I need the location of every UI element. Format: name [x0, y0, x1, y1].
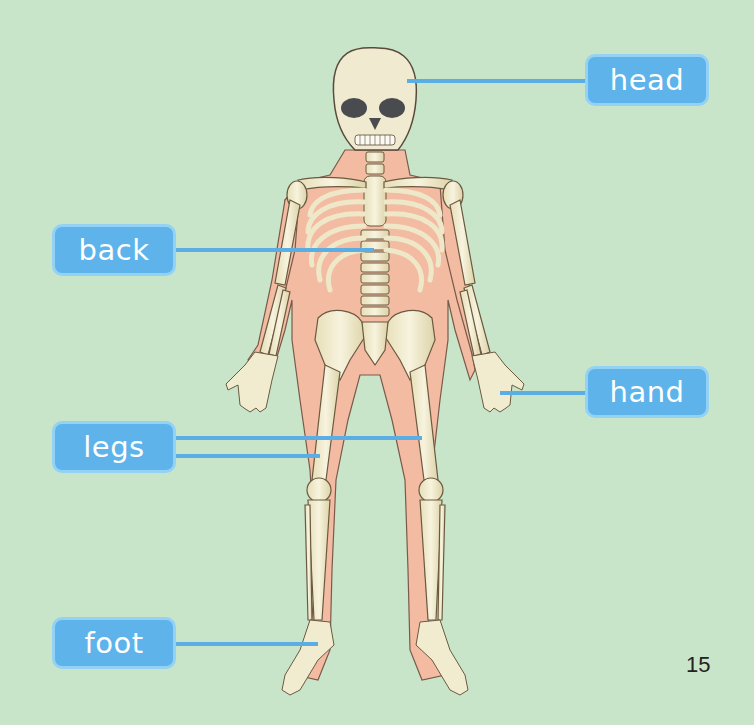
legs-leader-line-left	[176, 454, 320, 458]
hand-leader-line	[500, 391, 588, 395]
head-leader-line	[407, 79, 587, 83]
label-hand-text: hand	[610, 375, 685, 409]
label-back-text: back	[79, 233, 150, 267]
label-head-text: head	[610, 63, 684, 97]
label-foot-text: foot	[84, 626, 143, 660]
legs-leader-line-right	[176, 436, 422, 440]
label-legs: legs	[52, 421, 176, 473]
skull	[333, 48, 416, 150]
feet	[282, 620, 468, 695]
label-hand: hand	[585, 366, 709, 418]
page-number: 15	[686, 652, 710, 678]
foot-leader-line	[176, 642, 318, 646]
label-back: back	[52, 224, 176, 276]
diagram-page: head back hand legs foot 15	[0, 0, 754, 725]
label-foot: foot	[52, 617, 176, 669]
back-leader-line	[176, 248, 374, 252]
label-head: head	[585, 54, 709, 106]
label-legs-text: legs	[83, 430, 144, 464]
